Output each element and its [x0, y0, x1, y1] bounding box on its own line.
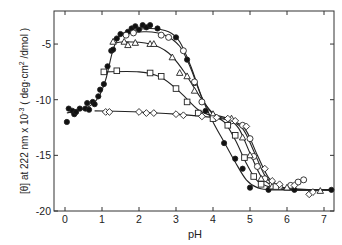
data-point — [101, 82, 106, 87]
data-point — [123, 32, 129, 38]
data-point — [180, 112, 187, 119]
x-tick-label: 5 — [247, 213, 253, 225]
fit-curve — [111, 42, 331, 190]
data-point — [136, 27, 141, 32]
data-point — [101, 69, 107, 75]
data-point — [225, 122, 231, 128]
data-point — [247, 185, 252, 190]
y-tick-label: -10 — [36, 94, 51, 106]
data-point — [143, 110, 150, 117]
data-point — [111, 47, 116, 52]
data-point — [105, 64, 110, 69]
data-point — [203, 108, 208, 113]
x-tick-label: 4 — [210, 213, 216, 225]
data-point — [329, 187, 334, 192]
data-point — [155, 26, 160, 31]
data-point — [158, 74, 164, 80]
data-point — [118, 31, 123, 36]
x-tick-label: 2 — [136, 213, 142, 225]
data-point — [92, 102, 97, 107]
y-tick-label: -15 — [36, 149, 51, 161]
data-point — [86, 107, 91, 112]
data-point — [240, 166, 245, 171]
data-point — [114, 68, 120, 74]
data-point — [192, 79, 198, 85]
data-point — [85, 100, 90, 105]
y-tick-label: -20 — [36, 205, 51, 217]
data-point — [185, 57, 190, 62]
data-point — [232, 133, 238, 139]
x-tick-label: 1 — [99, 213, 105, 225]
data-point — [166, 34, 172, 40]
data-point — [158, 32, 164, 38]
x-axis-label: pH — [188, 228, 202, 240]
data-point — [239, 134, 245, 140]
data-point — [233, 156, 238, 161]
data-point — [180, 48, 186, 54]
data-point — [136, 109, 143, 116]
x-tick-label: 6 — [284, 213, 290, 225]
data-point — [96, 94, 101, 99]
x-tick-label: 0 — [62, 213, 68, 225]
y-tick-label: -5 — [42, 38, 51, 50]
data-point — [98, 87, 103, 92]
x-axis-ticks: 01234567 — [62, 11, 327, 225]
data-point — [150, 110, 157, 117]
data-points — [64, 23, 334, 198]
data-point — [147, 70, 153, 76]
data-point — [258, 181, 264, 187]
data-point — [130, 30, 136, 36]
data-point — [251, 174, 257, 180]
data-point — [173, 35, 178, 40]
data-point — [191, 87, 197, 93]
data-point — [114, 36, 119, 41]
data-point — [301, 177, 307, 183]
x-tick-label: 7 — [321, 213, 327, 225]
data-point — [184, 99, 190, 105]
y-axis-label: [θ] at 222 nm x 10-3( deg·cm2 /dmol ) — [18, 28, 30, 194]
x-tick-label: 3 — [173, 213, 179, 225]
data-point — [247, 136, 253, 142]
data-point — [173, 111, 180, 118]
data-point — [64, 119, 69, 124]
data-point — [254, 163, 260, 169]
data-point — [77, 106, 82, 111]
data-point — [242, 155, 248, 161]
data-point — [148, 23, 153, 28]
chart: 01234567 -5-10-15-20 pH [θ] at 222 nm x … — [0, 0, 342, 245]
data-point — [199, 99, 205, 105]
data-point — [177, 70, 183, 76]
data-point — [173, 86, 179, 92]
data-point — [222, 141, 227, 146]
